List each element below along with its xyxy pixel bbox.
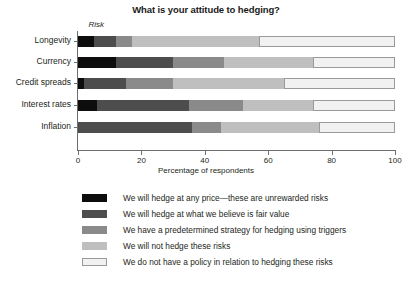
x-tick [395, 151, 396, 155]
bar-segment [126, 78, 174, 89]
legend-swatch [82, 194, 107, 202]
bar-segment [116, 57, 173, 68]
plot-area: 020406080100 LongevityCurrencyCredit spr… [78, 31, 395, 150]
bar-row: Currency [78, 57, 395, 68]
legend-label: We have a predetermined strategy for hed… [123, 225, 346, 235]
bar-category-label: Inflation [41, 121, 71, 131]
x-axis-line [77, 150, 396, 151]
bar-segment [224, 57, 313, 68]
legend-item: We do not have a policy in relation to h… [82, 254, 346, 270]
bar-segment [221, 122, 319, 133]
x-tick [332, 151, 333, 155]
bar-segment [313, 57, 395, 68]
bar-row: Longevity [78, 36, 395, 47]
x-tick [141, 151, 142, 155]
bar-segment [97, 100, 189, 111]
bar-segment [78, 100, 97, 111]
legend-label: We will not hedge these risks [123, 241, 230, 251]
bar-segment [132, 36, 259, 47]
bar-segment [259, 36, 395, 47]
bar-segment [313, 100, 395, 111]
bar-category-label: Currency [37, 56, 71, 66]
bar-segment [243, 100, 313, 111]
chart-legend: We will hedge at any price—these are unr… [82, 190, 346, 270]
chart-title: What is your attitude to hedging? [0, 4, 412, 15]
legend-item: We will not hedge these risks [82, 238, 346, 254]
bar-row: Credit spreads [78, 78, 395, 89]
bar-segment [192, 122, 221, 133]
x-tick-label: 100 [388, 156, 401, 165]
legend-item: We will hedge at any price—these are unr… [82, 190, 346, 206]
y-axis-title: Risk [46, 20, 104, 29]
x-tick-label: 60 [264, 156, 273, 165]
legend-label: We will hedge at what we believe is fair… [123, 209, 289, 219]
x-tick-label: 0 [76, 156, 80, 165]
bar-segment [78, 57, 116, 68]
bar-segment [78, 36, 94, 47]
legend-swatch [82, 210, 107, 218]
x-tick [78, 151, 79, 155]
bar-segment [173, 57, 224, 68]
bar-category-label: Credit spreads [16, 77, 71, 87]
bar-category-label: Longevity [35, 35, 71, 45]
x-tick [205, 151, 206, 155]
bar-category-label: Interest rates [21, 99, 71, 109]
legend-item: We will hedge at what we believe is fair… [82, 206, 346, 222]
legend-swatch [82, 242, 107, 250]
bar-segment [319, 122, 395, 133]
bar-segment [173, 78, 284, 89]
legend-item: We have a predetermined strategy for hed… [82, 222, 346, 238]
x-tick-label: 80 [327, 156, 336, 165]
x-axis-title: Percentage of respondents [0, 166, 412, 175]
bar-row: Inflation [78, 122, 395, 133]
bar-segment [116, 36, 132, 47]
legend-label: We will hedge at any price—these are unr… [123, 193, 328, 203]
bar-segment [84, 78, 125, 89]
bar-segment [284, 78, 395, 89]
legend-label: We do not have a policy in relation to h… [123, 257, 333, 267]
bar-segment [94, 36, 116, 47]
legend-swatch [82, 258, 107, 266]
x-tick [268, 151, 269, 155]
legend-swatch [82, 226, 107, 234]
x-tick-label: 40 [200, 156, 209, 165]
x-tick-label: 20 [137, 156, 146, 165]
bar-segment [78, 122, 192, 133]
bar-segment [189, 100, 243, 111]
bar-row: Interest rates [78, 100, 395, 111]
